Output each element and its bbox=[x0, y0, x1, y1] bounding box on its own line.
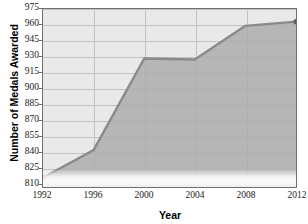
line-chart: Number of Medals Awarded 810825840855870… bbox=[0, 0, 308, 224]
y-tick-label: 825 bbox=[0, 163, 39, 172]
x-tick-label: 2004 bbox=[175, 190, 215, 201]
y-tick-label: 915 bbox=[0, 67, 39, 76]
y-tick-label: 870 bbox=[0, 115, 39, 124]
x-tick-label: 2000 bbox=[124, 190, 164, 201]
y-tick-label: 975 bbox=[0, 3, 39, 12]
area-fill bbox=[43, 22, 296, 187]
y-tick-label: 900 bbox=[0, 83, 39, 92]
y-tick-label: 885 bbox=[0, 99, 39, 108]
x-tick-label: 1992 bbox=[22, 190, 62, 201]
y-tick-label: 810 bbox=[0, 179, 39, 188]
y-tick-label: 855 bbox=[0, 131, 39, 140]
y-tick-label: 930 bbox=[0, 51, 39, 60]
x-axis-title: Year bbox=[42, 209, 298, 221]
series-area-path bbox=[43, 9, 296, 187]
x-tick-label: 2012 bbox=[277, 190, 308, 201]
y-tick-label: 840 bbox=[0, 147, 39, 156]
plot-area bbox=[42, 8, 297, 188]
y-tick-label: 945 bbox=[0, 35, 39, 44]
x-axis-tick-labels: 199219962000200420082012 bbox=[0, 190, 308, 206]
x-tick-label: 1996 bbox=[73, 190, 113, 201]
x-tick-label: 2008 bbox=[226, 190, 266, 201]
y-tick-label: 960 bbox=[0, 19, 39, 28]
